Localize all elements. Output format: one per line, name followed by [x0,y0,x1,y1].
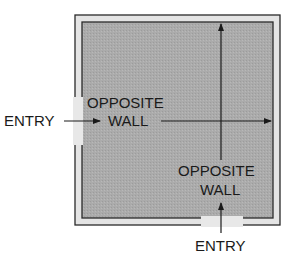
left-opposite-label-1: OPPOSITE [87,94,164,111]
bottom-entry-label: ENTRY [195,237,246,254]
bottom-opposite-label-1: OPPOSITE [178,162,255,179]
left-opposite-label-2: WALL [108,112,148,129]
bottom-entry-opening [201,216,243,227]
bottom-opposite-label-2: WALL [200,181,240,198]
left-entry-label: ENTRY [4,112,55,129]
room-entry-diagram: ENTRY OPPOSITE WALL OPPOSITE WALL ENTRY [0,0,292,275]
